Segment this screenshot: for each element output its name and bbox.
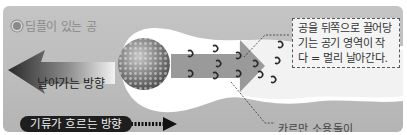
title-text: 딤플이 있는 공 (25, 17, 96, 34)
airflow-arrowhead (163, 117, 177, 131)
fly-direction-label: 날아가는 방향 (37, 74, 105, 91)
karman-vortex-label: 카르만 소용돌이 (278, 120, 353, 132)
airflow-direction-label: 기류가 흐르는 방향 (20, 116, 132, 132)
drag-callout: 공을 뒤쪽으로 끌어당기는 공기 영역이 작다 = 멀리 날아간다. (292, 18, 400, 68)
diagram-panel: 딤플이 있는 공 공을 뒤쪽으로 끌어당기는 공기 영역이 작다 = 멀리 날아… (3, 6, 403, 132)
diagram-title: 딤플이 있는 공 (13, 17, 96, 34)
bullet-icon (13, 22, 21, 30)
